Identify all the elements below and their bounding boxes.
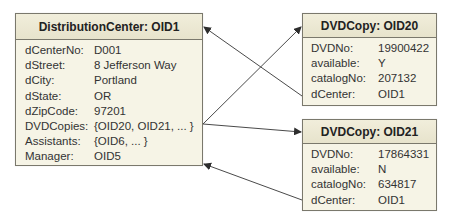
attribute-key: available: (311, 56, 378, 71)
attribute-row: Manager:OID5 (25, 149, 202, 164)
attribute-key: Assistants: (25, 134, 94, 149)
attribute-row: DVDNo:17864331 (311, 147, 436, 162)
attribute-value: N (378, 162, 436, 177)
attribute-row: catalogNo:207132 (311, 71, 436, 86)
attribute-value: 17864331 (378, 147, 436, 162)
attribute-row: Assistants:{OID6, ... } (25, 134, 202, 149)
attribute-value: {OID20, OID21, ... } (94, 119, 202, 134)
attribute-key: catalogNo: (311, 177, 378, 192)
object-title: DVDCopy: OID20 (303, 14, 436, 38)
attribute-row: available:Y (311, 56, 436, 71)
attribute-key: dCenterNo: (25, 43, 94, 58)
arrow-oid20-dcenter-to-dc (204, 27, 302, 96)
attribute-key: DVDNo: (311, 41, 378, 56)
attribute-value: D001 (94, 43, 202, 58)
object-attributes: DVDNo:19900422 available:Y catalogNo:207… (303, 38, 436, 102)
attribute-row: dCenter:OID1 (311, 193, 436, 208)
attribute-row: dStreet:8 Jefferson Way (25, 58, 202, 73)
attribute-key: Manager: (25, 149, 94, 164)
attribute-row: dState:OR (25, 89, 202, 104)
attribute-key: dState: (25, 89, 94, 104)
attribute-key: dCenter: (311, 87, 378, 102)
attribute-row: DVDCopies:{OID20, OID21, ... } (25, 119, 202, 134)
attribute-key: dCenter: (311, 193, 378, 208)
dvd-copy-oid21-object: DVDCopy: OID21 DVDNo:17864331 available:… (302, 119, 437, 211)
object-attributes: dCenterNo:D001 dStreet:8 Jefferson Way d… (16, 40, 202, 165)
attribute-value: OID5 (94, 149, 202, 164)
dvd-copy-oid20-object: DVDCopy: OID20 DVDNo:19900422 available:… (302, 13, 437, 106)
object-title: DistributionCenter: OID1 (16, 14, 202, 40)
attribute-value: 97201 (94, 104, 202, 119)
attribute-key: available: (311, 162, 378, 177)
distribution-center-object: DistributionCenter: OID1 dCenterNo:D001 … (15, 13, 203, 166)
arrow-dvdcopies-to-oid21 (203, 124, 301, 132)
attribute-row: dZipCode:97201 (25, 104, 202, 119)
attribute-key: DVDCopies: (25, 119, 94, 134)
attribute-key: dZipCode: (25, 104, 94, 119)
attribute-value: OR (94, 89, 202, 104)
attribute-value: OID1 (378, 87, 436, 102)
attribute-value: 634817 (378, 177, 436, 192)
attribute-row: DVDNo:19900422 (311, 41, 436, 56)
attribute-row: dCenter:OID1 (311, 87, 436, 102)
attribute-key: dCity: (25, 73, 94, 88)
attribute-key: dStreet: (25, 58, 94, 73)
attribute-row: available:N (311, 162, 436, 177)
attribute-row: dCity:Portland (25, 73, 202, 88)
object-attributes: DVDNo:17864331 available:N catalogNo:634… (303, 144, 436, 208)
arrow-oid21-dcenter-to-dc (204, 164, 302, 200)
attribute-value: 207132 (378, 71, 436, 86)
attribute-key: catalogNo: (311, 71, 378, 86)
attribute-row: catalogNo:634817 (311, 177, 436, 192)
attribute-key: DVDNo: (311, 147, 378, 162)
object-title: DVDCopy: OID21 (303, 120, 436, 144)
attribute-row: dCenterNo:D001 (25, 43, 202, 58)
arrow-dvdcopies-to-oid20 (203, 27, 301, 124)
attribute-value: Portland (94, 73, 202, 88)
attribute-value: {OID6, ... } (94, 134, 202, 149)
attribute-value: 8 Jefferson Way (94, 58, 202, 73)
attribute-value: 19900422 (378, 41, 436, 56)
attribute-value: Y (378, 56, 436, 71)
attribute-value: OID1 (378, 193, 436, 208)
